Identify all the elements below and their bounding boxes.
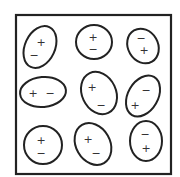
plus-sign: + — [87, 81, 96, 94]
plus-sign: + — [36, 36, 45, 49]
minus-sign: − — [141, 84, 150, 97]
dipole: +− — [19, 75, 67, 109]
dipole-ellipse — [19, 75, 67, 109]
plus-sign: + — [83, 133, 92, 146]
dipole-ellipse — [67, 116, 118, 171]
minus-sign: − — [140, 128, 149, 141]
dipole: +− — [17, 21, 63, 74]
minus-sign: − — [45, 87, 54, 100]
plus-sign: + — [141, 142, 150, 155]
dipole: +− — [76, 25, 112, 59]
minus-sign: − — [29, 49, 38, 62]
plus-sign: + — [130, 99, 139, 112]
dipole: +− — [121, 23, 165, 69]
dipole: +− — [119, 69, 167, 122]
minus-sign: − — [91, 147, 100, 160]
minus-sign: − — [136, 32, 145, 45]
dipole-ellipse — [74, 66, 123, 120]
minus-sign: − — [96, 99, 105, 112]
dipole: +− — [130, 121, 162, 161]
minus-sign: − — [36, 147, 45, 160]
dipole-diagram: +−+−+−+−+−+−+−+−+− — [0, 0, 180, 177]
dipole: +− — [24, 126, 62, 164]
plus-sign: + — [139, 44, 148, 57]
dipole-group: +−+−+−+−+−+−+−+−+− — [17, 21, 167, 172]
plus-sign: + — [28, 87, 37, 100]
dipole: +− — [74, 66, 123, 120]
minus-sign: − — [88, 43, 97, 56]
plus-sign: + — [36, 134, 45, 147]
dipole: +− — [67, 116, 118, 171]
